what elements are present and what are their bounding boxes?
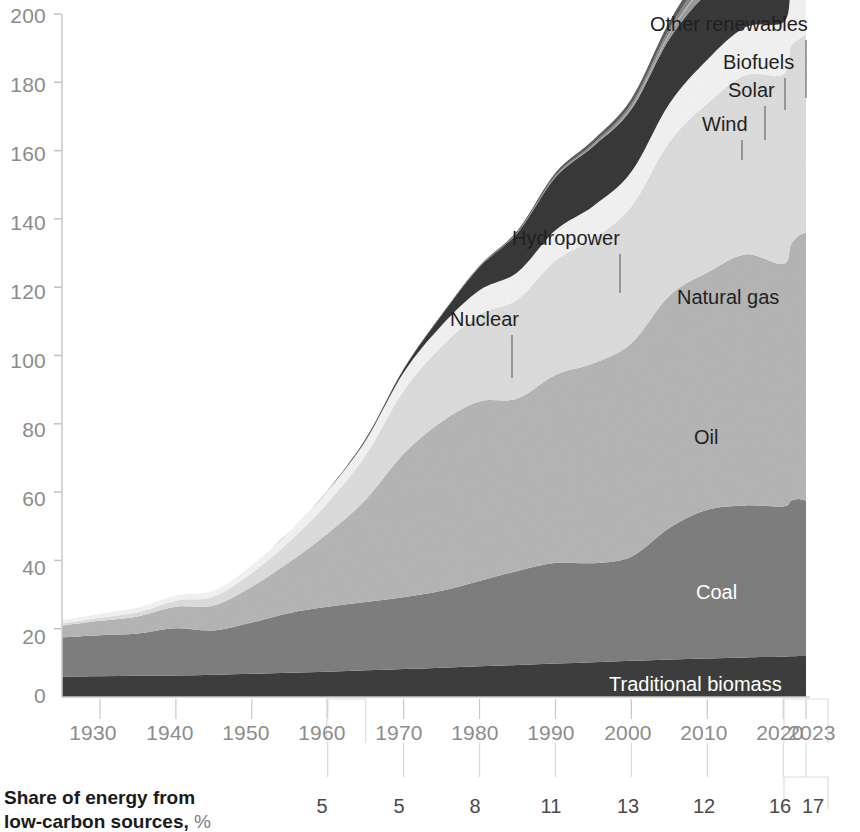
x-tick-1970: 1970 — [359, 721, 439, 745]
x-tick-1950: 1950 — [206, 721, 286, 745]
x-tick-1980: 1980 — [435, 721, 515, 745]
y-tick-40: 40 — [0, 556, 46, 580]
y-tick-140: 140 — [0, 211, 46, 235]
x-tick-1930: 1930 — [53, 721, 133, 745]
series-label-solar: Solar — [728, 79, 775, 102]
low-carbon-value-1990: 11 — [526, 795, 576, 818]
y-tick-180: 180 — [0, 73, 46, 97]
chart-root: 200 180 160 140 120 100 80 60 40 20 0 19… — [0, 0, 860, 832]
y-tick-100: 100 — [0, 349, 46, 373]
y-tick-20: 20 — [0, 625, 46, 649]
y-tick-80: 80 — [0, 418, 46, 442]
series-label-other-renewables: Other renewables — [650, 13, 808, 36]
series-label-hydropower: Hydropower — [512, 227, 620, 250]
low-carbon-title-line1: Share of energy from — [4, 787, 195, 808]
y-tick-160: 160 — [0, 142, 46, 166]
x-tick-1960: 1960 — [282, 721, 362, 745]
series-label-traditional-biomass: Traditional biomass — [609, 673, 782, 696]
y-tick-120: 120 — [0, 280, 46, 304]
low-carbon-row-title: Share of energy from low-carbon sources,… — [4, 786, 264, 832]
low-carbon-value-2010: 12 — [679, 795, 729, 818]
x-tick-1990: 1990 — [511, 721, 591, 745]
low-carbon-title-line2: low-carbon sources, — [4, 811, 189, 832]
x-tick-2010: 2010 — [664, 721, 744, 745]
series-label-coal: Coal — [696, 581, 737, 604]
low-carbon-title-unit: % — [194, 811, 211, 832]
y-tick-60: 60 — [0, 487, 46, 511]
series-label-oil: Oil — [694, 426, 718, 449]
series-label-wind: Wind — [702, 113, 748, 136]
x-tick-2023: 2023 — [772, 721, 852, 745]
low-carbon-value-2000: 13 — [603, 795, 653, 818]
series-label-natural-gas: Natural gas — [677, 286, 779, 309]
x-tick-1940: 1940 — [130, 721, 210, 745]
low-carbon-value-1980: 8 — [450, 795, 500, 818]
y-tick-200: 200 — [0, 4, 46, 28]
low-carbon-value-2023: 17 — [788, 795, 838, 818]
series-label-biofuels: Biofuels — [723, 51, 794, 74]
low-carbon-value-1960: 5 — [297, 795, 347, 818]
low-carbon-value-1970: 5 — [374, 795, 424, 818]
x-tick-2000: 2000 — [588, 721, 668, 745]
series-label-nuclear: Nuclear — [450, 308, 519, 331]
y-tick-0: 0 — [0, 684, 46, 708]
